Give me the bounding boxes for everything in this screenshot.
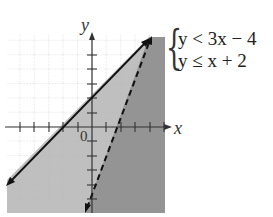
inequality-1: y < 3x − 4: [178, 28, 256, 50]
x-axis-arrow: [164, 124, 172, 130]
x-axis-label: x: [174, 118, 182, 139]
y-axis-label: y: [81, 15, 89, 36]
inequality-system: { y < 3x − 4 y ≤ x + 2: [166, 24, 273, 76]
inequality-2: y ≤ x + 2: [178, 50, 247, 72]
origin-label: 0: [80, 128, 88, 145]
